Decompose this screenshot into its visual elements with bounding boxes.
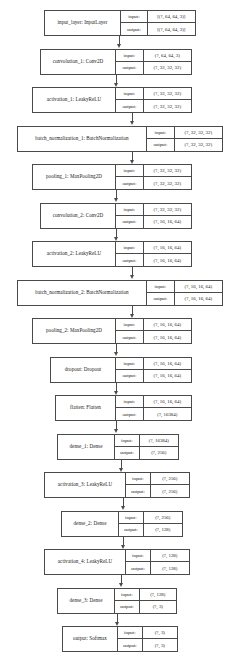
io-row-output: output:(?, 256) [115, 447, 178, 459]
output-shape: (?, 16384) [144, 408, 191, 420]
node-label-activation_3: activation_3: LeakyReLU [45, 473, 126, 497]
input-label: input: [116, 204, 144, 215]
node-label-pooling_2: pooling_2: MaxPooling2D [33, 319, 116, 343]
output-label: output: [116, 177, 144, 189]
node-dropout: dropout: Dropoutinput:(?, 16, 16, 64)out… [50, 357, 192, 383]
arrow-down-icon [115, 622, 119, 626]
input-label: input: [118, 627, 143, 638]
output-label: output: [116, 216, 144, 228]
io-table-output: input:(?, 3)output:(?, 3) [118, 627, 177, 651]
output-shape: (?, 32, 32, 32) [175, 139, 222, 151]
io-row-output: output:(?, 256) [126, 485, 189, 497]
node-batch_normalization_2: batch_normalization_2: BatchNormalizatio… [17, 280, 223, 306]
input-shape: [(?, 64, 64, 3)] [148, 11, 195, 22]
output-shape: (?, 32, 32, 32) [144, 177, 191, 189]
io-row-input: input:(?, 32, 32, 32) [116, 165, 191, 177]
io-table-batch_normalization_1: input:(?, 32, 32, 32)output:(?, 32, 32, … [147, 127, 222, 151]
node-convolution_2: convolution_2: Conv2Dinput:(?, 32, 32, 3… [40, 203, 192, 229]
input-label: input: [116, 396, 144, 407]
input-shape: (?, 16, 16, 64) [175, 281, 222, 292]
io-table-dense_1: input:(?, 16384)output:(?, 256) [115, 435, 178, 459]
io-table-activation_4: input:(?, 128)output:(?, 128) [126, 550, 189, 574]
node-label-input_layer: input_layer: InputLayer [45, 11, 121, 35]
output-label: output: [147, 139, 175, 151]
input-shape: (?, 3) [143, 627, 177, 638]
node-label-batch_normalization_1: batch_normalization_1: BatchNormalizatio… [18, 127, 147, 151]
output-label: output: [116, 408, 144, 420]
io-table-dense_3: input:(?, 128)output:(?, 3) [115, 589, 176, 613]
io-row-input: input:(?, 256) [126, 473, 189, 485]
output-label: output: [126, 485, 151, 497]
output-label: output: [119, 524, 144, 536]
io-table-convolution_2: input:(?, 32, 32, 32)output:(?, 16, 16, … [116, 204, 191, 228]
node-output: output: Softmaxinput:(?, 3)output:(?, 3) [62, 626, 178, 652]
node-label-activation_4: activation_4: LeakyReLU [45, 550, 126, 574]
io-row-input: input:(?, 32, 32, 32) [147, 127, 222, 139]
io-table-pooling_2: input:(?, 16, 16, 64)output:(?, 16, 16, … [116, 319, 191, 343]
output-label: output: [116, 100, 144, 112]
io-table-pooling_1: input:(?, 32, 32, 32)output:(?, 32, 32, … [116, 165, 191, 189]
node-activation_3: activation_3: LeakyReLUinput:(?, 256)out… [44, 472, 190, 498]
node-flatten: flatten: Flatteninput:(?, 16, 16, 64)out… [55, 395, 192, 421]
io-table-activation_3: input:(?, 256)output:(?, 256) [126, 473, 189, 497]
io-row-input: input:(?, 32, 32, 32) [116, 204, 191, 216]
io-row-output: output:(?, 16, 16, 64) [116, 216, 191, 228]
input-label: input: [116, 88, 144, 99]
io-row-input: input:(?, 3) [118, 627, 177, 639]
output-label: output: [116, 254, 144, 266]
output-label: output: [121, 23, 148, 35]
output-shape: (?, 16, 16, 64) [144, 331, 191, 343]
arrow-down-icon [114, 391, 118, 395]
io-row-output: output:(?, 128) [119, 524, 182, 536]
node-activation_4: activation_4: LeakyReLUinput:(?, 128)out… [44, 549, 190, 575]
node-label-batch_normalization_2: batch_normalization_2: BatchNormalizatio… [18, 281, 147, 305]
input-label: input: [115, 589, 140, 600]
output-label: output: [115, 447, 140, 459]
arrow-down-icon [130, 160, 134, 164]
input-shape: (?, 32, 32, 32) [144, 88, 191, 99]
output-shape: (?, 3) [143, 639, 177, 651]
node-pooling_1: pooling_1: MaxPooling2Dinput:(?, 32, 32,… [32, 164, 192, 190]
io-row-output: output:(?, 3) [118, 639, 177, 651]
io-row-input: input:[(?, 64, 64, 3)] [121, 11, 195, 23]
node-pooling_2: pooling_2: MaxPooling2Dinput:(?, 16, 16,… [32, 318, 192, 344]
input-shape: (?, 16, 16, 64) [144, 396, 191, 407]
output-label: output: [116, 331, 144, 343]
arrow-down-icon [119, 583, 123, 587]
input-label: input: [116, 165, 144, 176]
node-input_layer: input_layer: InputLayerinput:[(?, 64, 64… [44, 10, 196, 36]
output-shape: (?, 16, 16, 64) [144, 254, 191, 266]
arrow-down-icon [121, 506, 125, 510]
node-label-dense_3: dense_3: Dense [58, 589, 115, 613]
output-shape: (?, 32, 32, 32) [144, 100, 191, 112]
node-label-convolution_1: convolution_1: Conv2D [41, 50, 116, 74]
node-activation_1: activation_1: LeakyReLUinput:(?, 32, 32,… [32, 87, 192, 113]
input-label: input: [116, 319, 144, 330]
input-label: input: [119, 512, 144, 523]
io-row-output: output:(?, 128) [126, 562, 189, 574]
io-table-dropout: input:(?, 16, 16, 64)output:(?, 16, 16, … [116, 358, 191, 382]
arrow-down-icon [117, 44, 121, 48]
input-shape: (?, 128) [151, 550, 189, 561]
arrow-down-icon [114, 198, 118, 202]
output-shape: (?, 16, 16, 64) [144, 370, 191, 382]
input-shape: (?, 16384) [140, 435, 178, 446]
node-dense_3: dense_3: Denseinput:(?, 128)output:(?, 3… [57, 588, 177, 614]
node-convolution_1: convolution_1: Conv2Dinput:(?, 64, 64, 3… [40, 49, 192, 75]
node-label-convolution_2: convolution_2: Conv2D [41, 204, 116, 228]
input-label: input: [116, 50, 144, 61]
input-label: input: [147, 281, 175, 292]
io-row-output: output:(?, 32, 32, 32) [116, 62, 191, 74]
io-row-input: input:(?, 16, 16, 64) [116, 319, 191, 331]
io-row-input: input:(?, 256) [119, 512, 182, 524]
arrow-down-icon [114, 429, 118, 433]
output-label: output: [126, 562, 151, 574]
io-table-dense_2: input:(?, 256)output:(?, 128) [119, 512, 182, 536]
io-row-input: input:(?, 128) [115, 589, 176, 601]
node-label-dense_2: dense_2: Dense [62, 512, 119, 536]
arrow-down-icon [130, 275, 134, 279]
output-label: output: [115, 601, 140, 613]
input-shape: (?, 32, 32, 32) [144, 204, 191, 215]
io-row-input: input:(?, 64, 64, 3) [116, 50, 191, 62]
output-shape: (?, 3) [140, 601, 176, 613]
